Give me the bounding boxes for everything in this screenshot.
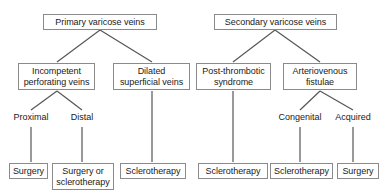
connector-avfistulae-to-acquired (320, 91, 353, 110)
flowchart-node-congenital: Congenital (273, 112, 327, 124)
flowchart-node-dilated: Dilated superficial veins (113, 63, 190, 90)
connector-incompetent-to-distal (57, 91, 82, 110)
flowchart-node-proximal: Proximal (8, 112, 54, 124)
flowchart-node-distal: Distal (65, 112, 99, 124)
flowchart-node-avfistulae: Arteriovenous fistulae (283, 63, 357, 90)
flowchart-node-surgeryorsclero: Surgery or sclerotherapy (52, 163, 114, 190)
connector-incompetent-to-proximal (31, 91, 57, 110)
flowchart-node-secondary: Secondary varicose veins (214, 14, 337, 30)
flowchart-node-surgery2: Surgery (337, 163, 379, 179)
connector-avfistulae-to-congenital (300, 91, 320, 110)
connector-primary-to-dilated (100, 30, 152, 62)
flowchart-node-sclero3: Sclerotherapy (270, 163, 333, 179)
connector-secondary-to-avfistulae (275, 30, 320, 62)
connector-secondary-to-postthrombotic (233, 30, 275, 62)
varicose-veins-flowchart: Primary varicose veinsSecondary varicose… (0, 0, 383, 193)
flowchart-node-sclero1: Sclerotherapy (120, 163, 186, 179)
connector-primary-to-incompetent (57, 30, 100, 62)
flowchart-node-acquired: Acquired (330, 112, 376, 124)
flowchart-node-surgery1: Surgery (9, 163, 48, 179)
flowchart-node-sclero2: Sclerotherapy (198, 163, 268, 179)
flowchart-node-postthrombotic: Post-thrombotic syndrome (196, 63, 271, 90)
flowchart-node-primary: Primary varicose veins (43, 14, 157, 30)
flowchart-node-incompetent: Incompetent perforating veins (18, 63, 95, 90)
